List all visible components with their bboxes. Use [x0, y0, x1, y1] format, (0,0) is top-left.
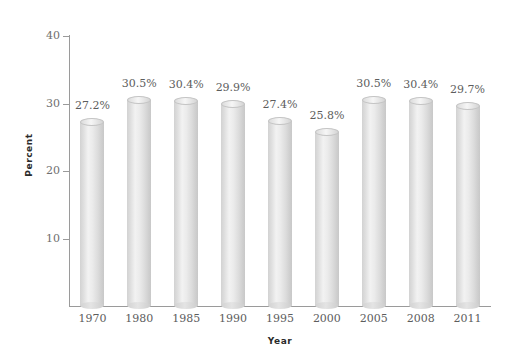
bar-group: 30.5%2005 — [362, 0, 386, 306]
bar-cylinder — [315, 132, 339, 306]
bar-value-label: 30.4% — [396, 79, 446, 91]
bar-cylinder-cap — [362, 96, 386, 104]
x-tick-label: 2005 — [349, 313, 399, 325]
bar-cylinder-base — [315, 302, 339, 309]
bar-group: 30.5%1980 — [127, 0, 151, 306]
bar-cylinder-cap — [174, 97, 198, 105]
y-tick-mark — [63, 171, 70, 172]
bar-cylinder-cap — [456, 102, 480, 110]
bar-cylinder-cap — [315, 128, 339, 136]
bar-group: 25.8%2000 — [315, 0, 339, 306]
y-tick-label-text: 10 — [34, 233, 60, 244]
bar-cylinder-cap — [409, 97, 433, 105]
y-tick-label: 20 — [30, 165, 60, 176]
y-tick-label-text: 30 — [34, 98, 60, 109]
y-tick-label-text: 20 — [34, 165, 60, 176]
y-axis-title: Percent — [24, 120, 34, 190]
bar-cylinder-base — [268, 302, 292, 309]
x-tick-label: 1970 — [67, 313, 117, 325]
bar-cylinder — [221, 104, 245, 306]
bar-cylinder — [127, 100, 151, 306]
y-tick-mark — [63, 239, 70, 240]
bar-chart: 10203040 27.2%197030.5%198030.4%198529.9… — [0, 0, 507, 358]
x-tick-label: 1990 — [208, 313, 258, 325]
bar-group: 30.4%1985 — [174, 0, 198, 306]
bar-cylinder-base — [362, 302, 386, 309]
bar-cylinder — [456, 106, 480, 306]
x-tick-label: 1985 — [161, 313, 211, 325]
bar-cylinder-cap — [80, 118, 104, 126]
bar-value-label: 27.4% — [255, 99, 305, 111]
y-tick-label: 10 — [30, 233, 60, 244]
bar-cylinder-base — [221, 302, 245, 309]
y-tick-mark — [63, 36, 70, 37]
bar-cylinder-base — [456, 302, 480, 309]
bar-group: 27.2%1970 — [80, 0, 104, 306]
x-tick-label: 1980 — [114, 313, 164, 325]
bar-group: 27.4%1995 — [268, 0, 292, 306]
y-tick-label: 30 — [30, 98, 60, 109]
y-tick-label-text: 40 — [34, 30, 60, 41]
x-axis-title: Year — [69, 336, 491, 346]
bar-group: 30.4%2008 — [409, 0, 433, 306]
bar-value-label: 29.9% — [208, 82, 258, 94]
bar-cylinder — [174, 101, 198, 306]
bar-cylinder-base — [80, 302, 104, 309]
x-tick-label: 2011 — [443, 313, 493, 325]
bar-value-label: 30.5% — [349, 78, 399, 90]
bar-cylinder-cap — [268, 117, 292, 125]
bar-cylinder — [362, 100, 386, 306]
bar-value-label: 27.2% — [67, 100, 117, 112]
bar-group: 29.7%2011 — [456, 0, 480, 306]
y-tick-label: 40 — [30, 30, 60, 41]
x-tick-label: 2000 — [302, 313, 352, 325]
bar-cylinder — [409, 101, 433, 306]
bar-cylinder-cap — [127, 96, 151, 104]
bar-value-label: 25.8% — [302, 110, 352, 122]
bar-cylinder-base — [127, 302, 151, 309]
bar-cylinder — [80, 122, 104, 306]
bar-value-label: 30.5% — [114, 78, 164, 90]
bar-group: 29.9%1990 — [221, 0, 245, 306]
x-tick-label: 2008 — [396, 313, 446, 325]
bar-cylinder — [268, 121, 292, 306]
bar-value-label: 30.4% — [161, 79, 211, 91]
bar-cylinder-base — [409, 302, 433, 309]
bar-value-label: 29.7% — [443, 84, 493, 96]
bar-cylinder-base — [174, 302, 198, 309]
x-tick-label: 1995 — [255, 313, 305, 325]
bar-cylinder-cap — [221, 100, 245, 108]
